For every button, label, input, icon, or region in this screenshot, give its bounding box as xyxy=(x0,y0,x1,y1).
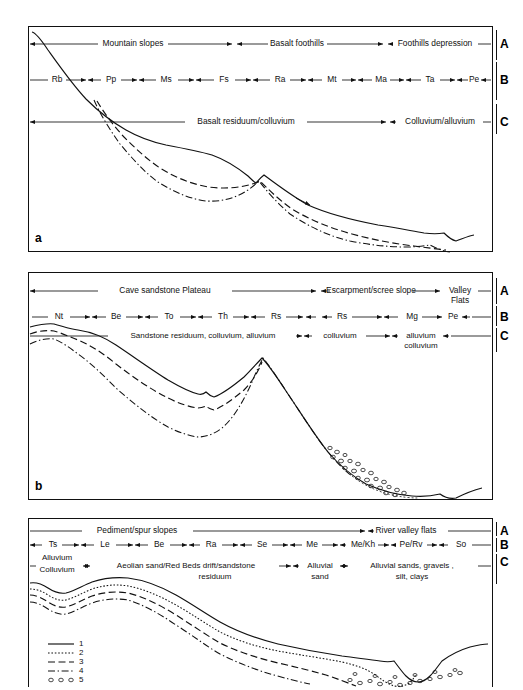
panel-c-gravel-lens xyxy=(348,669,463,687)
panel-c-graphic: Pediment/spur slopes River valley flats … xyxy=(0,0,523,690)
legend: 1 2 3 4 5 xyxy=(48,639,84,684)
panel-c-row-label-C: C xyxy=(500,555,509,569)
panel-c-profile-horizon2 xyxy=(30,585,416,686)
legend-label-5: 5 xyxy=(79,675,84,684)
panel-c-rowC-label-1: Aeolian sand/Red Beds drift/sandstone xyxy=(117,561,256,570)
panel-c-rowB-label-4: Se xyxy=(257,539,268,549)
legend-label-2: 2 xyxy=(79,648,84,657)
panel-c-rowC-label-0b: Colluvium xyxy=(39,565,74,574)
panel-c-rowC-label-2b: sand xyxy=(311,572,328,581)
panel-c-rowA-label-0: Pediment/spur slopes xyxy=(97,525,178,535)
panel-c-rowA-label-1: River valley flats xyxy=(376,525,437,535)
panel-c-rowC-label-3: Alluvial sands, gravels , xyxy=(370,561,454,570)
panel-c-rowbar-A xyxy=(496,522,497,536)
panel-c-rowB-label-1: Le xyxy=(100,539,110,549)
panel-c-rowC-label-3b: silt, clays xyxy=(396,572,428,581)
panel-c-rowC-label-1b: residuum xyxy=(199,572,232,581)
panel-c-rowC-label-0: Alluvium xyxy=(42,553,73,562)
legend-label-4: 4 xyxy=(79,666,84,675)
panel-c-rowbar-C xyxy=(496,554,497,584)
panel-c-rowB-label-5: Me xyxy=(306,539,318,549)
panel-c-profile-surface xyxy=(30,578,488,682)
legend-label-3: 3 xyxy=(79,657,84,666)
panel-c-row-label-B: B xyxy=(500,538,509,552)
panel-c-rowB-label-8: So xyxy=(456,539,467,549)
legend-swatch-5 xyxy=(49,678,74,682)
panel-c-rowB-label-0: Ts xyxy=(49,539,57,549)
legend-label-1: 1 xyxy=(79,639,84,648)
panel-c-rowB-label-3: Ra xyxy=(206,539,217,549)
panel-c-rowB-label-7: Pe/Rv xyxy=(400,539,424,549)
panel-c-rowbar-B xyxy=(496,538,497,552)
panel-c-rowC-label-2: Alluvial xyxy=(307,561,333,570)
panel-c-rowB-label-6: Me/Kh xyxy=(351,539,376,549)
panel-c-rowB-label-2: Be xyxy=(154,539,165,549)
panel-c-row-label-A: A xyxy=(500,524,509,538)
